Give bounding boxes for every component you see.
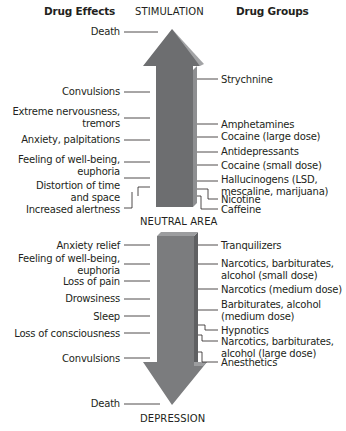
effect-tremors: tremors xyxy=(82,118,120,129)
effect-death-lower: Death xyxy=(91,398,120,409)
depression-arrow xyxy=(143,232,207,405)
group-antidepressants: Antidepressants xyxy=(221,146,299,157)
group-caffeine: Caffeine xyxy=(221,204,261,215)
drug-effects-header: Drug Effects xyxy=(44,6,115,17)
effect-sleep: Sleep xyxy=(93,311,120,322)
group-amphetamines: Amphetamines xyxy=(221,119,294,130)
effect-loss-of-pain: Loss of pain xyxy=(63,276,120,287)
effect-well-being-upper: Feeling of well-being, xyxy=(18,154,120,165)
group-narcotics-small-cont: alcohol (small dose) xyxy=(221,270,317,281)
effect-drowsiness: Drowsiness xyxy=(65,293,120,304)
drug-groups-header: Drug Groups xyxy=(236,6,309,17)
group-cocaine-large: Cocaine (large dose) xyxy=(221,131,320,142)
right-leaders-lower xyxy=(198,245,218,362)
group-strychnine: Strychnine xyxy=(221,74,273,85)
effect-well-being-lower: Feeling of well-being, xyxy=(18,253,120,264)
neutral-area-label: NEUTRAL AREA xyxy=(140,216,218,227)
effect-distortion-time: Distortion of time xyxy=(36,180,120,191)
group-narcotics-small: Narcotics, barbiturates, xyxy=(221,258,334,269)
group-hypnotics: Hypnotics xyxy=(221,325,269,336)
group-anesthetics: Anesthetics xyxy=(221,357,277,368)
group-cocaine-small: Cocaine (small dose) xyxy=(221,160,322,171)
group-tranquilizers: Tranquilizers xyxy=(221,240,281,251)
group-hallucinogens: Hallucinogens (LSD, xyxy=(221,174,317,185)
effect-euphoria-upper: euphoria xyxy=(77,166,120,177)
group-narcotics-medium: Narcotics (medium dose) xyxy=(221,284,342,295)
effect-death-upper: Death xyxy=(91,26,120,37)
effect-anxiety-relief: Anxiety relief xyxy=(56,240,120,251)
effect-loss-of-consciousness: Loss of consciousness xyxy=(14,328,120,339)
left-leaders-lower xyxy=(124,245,160,404)
depression-label: DEPRESSION xyxy=(140,413,205,424)
stimulation-label: STIMULATION xyxy=(135,6,204,17)
effect-convulsions-lower: Convulsions xyxy=(62,353,120,364)
effect-anxiety-palpitations: Anxiety, palpitations xyxy=(21,134,120,145)
effect-extreme-nervousness: Extreme nervousness, xyxy=(12,106,120,117)
effect-convulsions-upper: Convulsions xyxy=(62,86,120,97)
group-narcotics-large: Narcotics, barbiturates, xyxy=(221,336,334,347)
effect-increased-alertness: Increased alertness xyxy=(26,204,120,215)
group-barbiturates-medium: Barbiturates, alcohol xyxy=(221,299,321,310)
right-leaders-upper xyxy=(197,79,218,209)
stimulation-arrow xyxy=(143,29,204,207)
effect-and-space: and space xyxy=(70,192,120,203)
group-barbiturates-medium-cont: (medium dose) xyxy=(221,311,294,322)
effect-euphoria-lower: euphoria xyxy=(77,265,120,276)
